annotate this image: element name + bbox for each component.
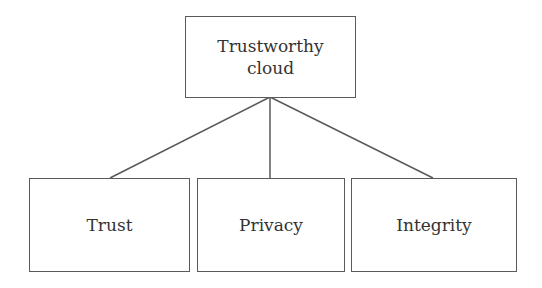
node-label-line2: cloud — [247, 57, 294, 79]
node-trustworthy-cloud: Trustworthy cloud — [185, 16, 356, 98]
diagram-canvas: Trustworthy cloud Trust Privacy Integrit… — [0, 0, 542, 288]
node-trust: Trust — [29, 178, 190, 272]
node-label: Integrity — [396, 214, 471, 236]
node-label: Trust — [87, 214, 133, 236]
node-label: Privacy — [239, 214, 303, 236]
edge-root-to-integrity — [270, 97, 433, 178]
edge-root-to-trust — [110, 97, 270, 178]
node-label-line1: Trustworthy — [217, 35, 323, 57]
node-privacy: Privacy — [197, 178, 345, 272]
node-integrity: Integrity — [351, 178, 517, 272]
